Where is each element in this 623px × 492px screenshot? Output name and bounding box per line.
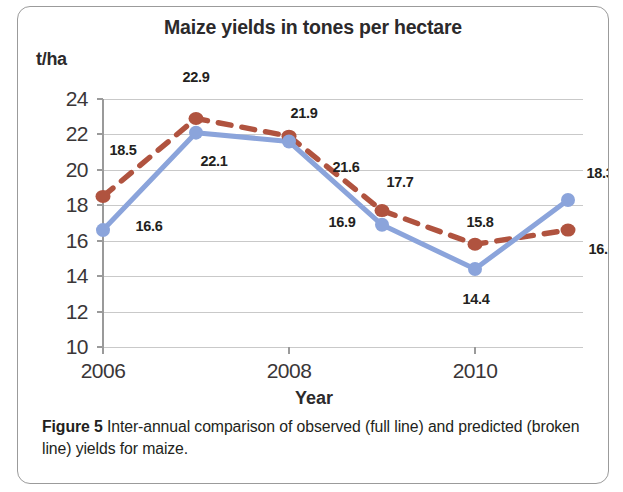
data-label-observed: 16.9 <box>328 214 355 230</box>
data-label-observed: 21.6 <box>332 159 359 175</box>
data-label-predicted: 21.9 <box>290 105 317 121</box>
data-label-predicted: 17.7 <box>386 174 413 190</box>
x-axis-ticks <box>103 347 475 354</box>
data-label-observed: 14.4 <box>462 291 489 307</box>
data-label-observed: 16.6 <box>135 218 162 234</box>
x-axis-title: Year <box>18 388 609 409</box>
figure-caption-text: Inter-annual comparison of observed (ful… <box>42 418 579 457</box>
series-markers-observed <box>96 126 575 276</box>
x-tick-label: 2006 <box>48 359 158 383</box>
series-line-observed-path <box>103 133 568 269</box>
figure-caption-label: Figure 5 <box>42 418 103 435</box>
data-label-observed: 18.3 <box>586 165 609 181</box>
chart-plot-area: t/ha 24 22 20 18 16 14 12 10 <box>18 7 609 415</box>
data-label-predicted: 15.8 <box>466 214 493 230</box>
figure-caption: Figure 5 Inter-annual comparison of obse… <box>42 416 587 461</box>
x-tick-label: 2010 <box>420 359 530 383</box>
data-label-predicted: 22.9 <box>182 69 209 85</box>
chart-svg <box>18 7 609 415</box>
data-label-observed: 22.1 <box>200 153 227 169</box>
figure-card: Maize yields in tones per hectare t/ha 2… <box>17 6 609 484</box>
y-axis-spine <box>97 99 103 347</box>
x-tick-label: 2008 <box>234 359 344 383</box>
data-label-predicted: 16.6 <box>588 241 609 257</box>
data-label-predicted: 18.5 <box>109 142 136 158</box>
